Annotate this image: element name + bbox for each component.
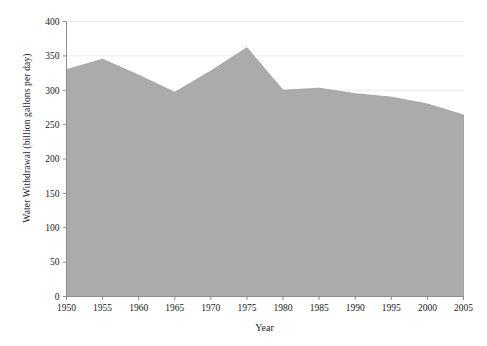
x-tick-label: 1965 — [165, 303, 184, 313]
x-tick-label: 1970 — [201, 303, 220, 313]
x-tick-label: 1980 — [274, 303, 293, 313]
y-tick-label: 300 — [45, 86, 60, 96]
chart-figure: Water Withdrawal (billion gallons per da… — [0, 0, 487, 346]
y-tick-label: 150 — [45, 189, 60, 199]
y-tick-labels-group: 050100150200250300350400 — [45, 17, 66, 302]
y-tick-label: 250 — [45, 120, 60, 130]
x-tick-label: 1955 — [93, 303, 112, 313]
x-tick-label: 2000 — [418, 303, 437, 313]
x-tick-label: 2005 — [454, 303, 473, 313]
x-tick-label: 1950 — [57, 303, 76, 313]
x-tick-label: 1990 — [346, 303, 365, 313]
y-tick-label: 400 — [45, 17, 60, 27]
x-tick-label: 1995 — [382, 303, 401, 313]
area-series-water-withdrawal — [67, 48, 464, 297]
y-tick-label: 350 — [45, 51, 60, 61]
x-tick-label: 1975 — [237, 303, 256, 313]
area-series-group — [67, 48, 464, 297]
area-chart-plot: 050100150200250300350400 195019551960196… — [0, 0, 487, 346]
y-tick-label: 100 — [45, 223, 60, 233]
y-tick-label: 0 — [55, 292, 60, 302]
x-tick-labels-group: 1950195519601965197019751980198519901995… — [57, 297, 473, 314]
x-tick-label: 1960 — [129, 303, 148, 313]
y-tick-label: 50 — [50, 257, 60, 267]
y-tick-label: 200 — [45, 154, 60, 164]
x-tick-label: 1985 — [310, 303, 329, 313]
